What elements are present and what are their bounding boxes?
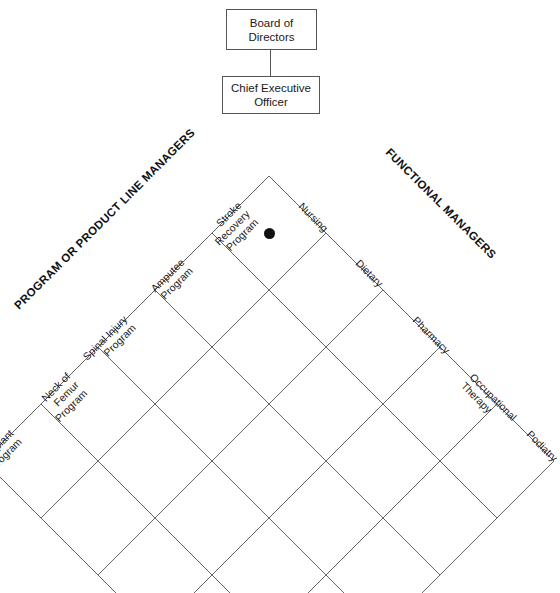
grid-outline-edge-1 (269, 461, 554, 593)
grid-line-row-5 (0, 461, 269, 593)
grid-line-col-2 (98, 290, 383, 575)
grid-outline-edge-2 (0, 461, 269, 593)
right-axis-label-4: Podiatry (524, 428, 560, 464)
grid-line-col-3 (155, 347, 440, 593)
grid-line-col-5 (269, 461, 554, 593)
grid-line-row-1 (212, 233, 497, 518)
marker-stroke-recovery-nursing (264, 228, 275, 239)
grid-line-row-2 (155, 290, 440, 575)
grid-line-row-3 (98, 347, 383, 593)
